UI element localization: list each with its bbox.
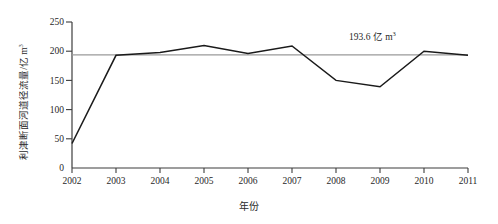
chart-canvas	[0, 0, 498, 224]
axis-lines	[72, 22, 468, 168]
data-series-line	[72, 45, 468, 143]
x-axis-ticks	[72, 168, 468, 173]
chart-figure: 利津断面河道径流量/亿 m3 250 200 150 100 50 0 2002…	[0, 0, 498, 224]
y-axis-ticks	[66, 22, 72, 139]
